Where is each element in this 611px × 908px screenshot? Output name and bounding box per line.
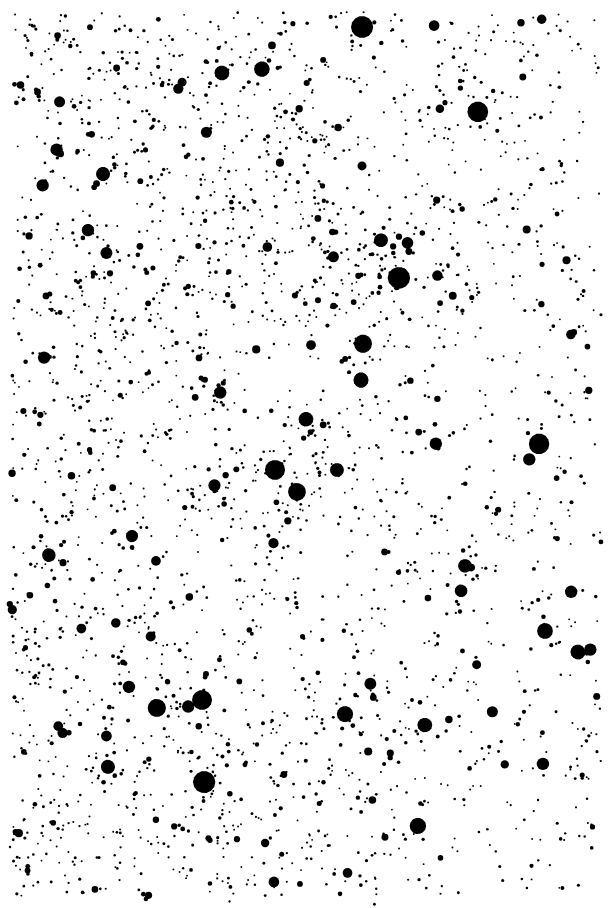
star-field-plate [0, 0, 611, 908]
star-field-image [0, 0, 611, 908]
